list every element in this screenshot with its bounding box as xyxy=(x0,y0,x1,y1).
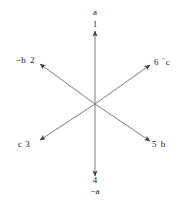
arrow-axis-5 xyxy=(95,104,150,141)
axis-label-b: b xyxy=(161,139,166,149)
axis-number-5: 5 xyxy=(152,139,157,149)
axis-label-a: a xyxy=(84,8,106,17)
axis-letter-c: c xyxy=(166,57,170,67)
axis-label-minus-b: −b xyxy=(16,55,26,65)
axis-number-3: 3 xyxy=(25,139,30,149)
axis-number-4: 4 xyxy=(82,176,108,185)
label-axis-3: c3 xyxy=(18,140,30,149)
label-axis-1: a 1 xyxy=(84,8,106,29)
label-axis-6: 6−c xyxy=(154,56,170,67)
label-axis-4: 4 −a xyxy=(82,176,108,196)
vector-arrows-group xyxy=(0,0,182,204)
arrow-axis-3 xyxy=(40,104,95,140)
axis-number-2: 2 xyxy=(30,55,35,65)
axis-number-1: 1 xyxy=(84,20,106,29)
label-axis-5: 5b xyxy=(152,140,165,149)
axis-label-minus-c: −c xyxy=(162,57,170,67)
arrow-axis-2 xyxy=(40,64,95,104)
arrow-axis-6 xyxy=(95,65,150,104)
axis-label-minus-a: −a xyxy=(82,187,108,196)
figure-canvas: a 1 −b2 6−c c3 5b 4 −a xyxy=(0,0,182,204)
axis-label-c: c xyxy=(18,139,22,149)
label-axis-2: −b2 xyxy=(16,56,35,65)
axis-number-6: 6 xyxy=(154,57,159,67)
